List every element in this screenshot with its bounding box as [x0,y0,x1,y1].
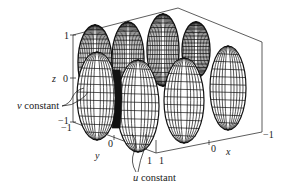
x-tick-0: 0 [211,143,216,154]
y-tick-1: 1 [147,155,152,166]
y-tick-0: 0 [108,138,113,149]
wireframe-surface [77,14,246,152]
v-constant-text: constant [22,100,60,111]
x-tick-neg1: −1 [263,129,274,140]
x-tick-1: 1 [159,155,164,166]
z-axis-label: z [51,73,56,84]
svg-text:u constant: u constant [133,172,176,183]
surface-lobe [210,46,246,130]
y-tick-neg1: −1 [61,122,72,133]
surface-figure: 1 0 z −1 −1 0 y 1 1 0 x −1 v constant u … [0,0,285,190]
z-tick-0: 0 [63,73,68,84]
surface-plot: 1 0 z −1 −1 0 y 1 1 0 x −1 v constant u … [0,0,285,190]
svg-text:v constant: v constant [17,100,59,111]
y-axis-label: y [94,150,100,161]
x-axis-label: x [225,146,231,157]
z-tick-1: 1 [64,30,69,41]
surface-lobe [77,52,117,140]
surface-lobe [117,60,159,152]
u-constant-text: constant [138,172,176,183]
surface-lobe [164,58,204,143]
